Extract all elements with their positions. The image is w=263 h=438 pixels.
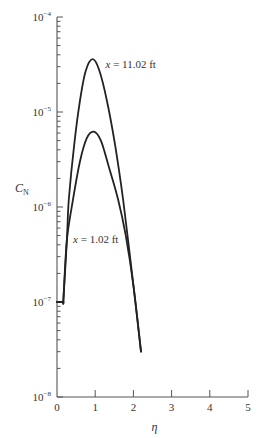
cn-vs-eta-chart: 10−410−510−610−710−8012345ηCNx = 11.02 f… bbox=[0, 0, 263, 438]
x-tick-label: 0 bbox=[54, 401, 60, 413]
y-tick-label: 10−7 bbox=[33, 295, 52, 308]
x-tick-label: 5 bbox=[245, 401, 251, 413]
y-tick-label: 10−8 bbox=[33, 390, 52, 403]
curve-annotation-1: x = 1.02 ft bbox=[72, 233, 118, 245]
y-axis-title: CN bbox=[15, 181, 29, 197]
x-tick-label: 1 bbox=[92, 401, 98, 413]
curves bbox=[57, 59, 141, 352]
x-tick-label: 3 bbox=[169, 401, 175, 413]
y-tick-label: 10−6 bbox=[33, 200, 52, 213]
y-tick-label: 10−5 bbox=[33, 105, 52, 118]
x-axis-title: η bbox=[152, 420, 158, 434]
x-tick-label: 2 bbox=[131, 401, 137, 413]
x-tick-label: 4 bbox=[207, 401, 213, 413]
curve-annotation-0: x = 11.02 ft bbox=[105, 58, 156, 70]
series-curve-0 bbox=[57, 59, 141, 352]
labels: 10−410−510−610−710−8012345ηCNx = 11.02 f… bbox=[15, 10, 251, 434]
y-tick-label: 10−4 bbox=[33, 10, 52, 23]
